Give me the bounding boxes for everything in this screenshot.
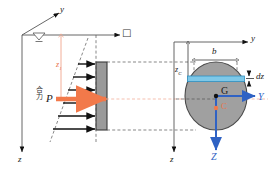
right-z-axis-label: z xyxy=(170,155,174,164)
pressure-distribution-arrows xyxy=(53,64,95,129)
right-y-axis-label: y xyxy=(251,34,255,43)
depth-label-zc-sub: C xyxy=(178,71,181,76)
submerged-plate xyxy=(96,62,107,130)
local-Z-axis-label: Z xyxy=(211,152,217,162)
figure-canvas: y z □ z1 合力 P y z zC b dz G C Y Z xyxy=(0,0,275,175)
water-surface-symbol xyxy=(33,33,45,42)
depth-label-z1: z1 xyxy=(56,61,62,72)
left-y-axis-label: y xyxy=(60,5,64,14)
local-Y-axis-label: Y xyxy=(258,92,264,102)
left-z-axis-label: z xyxy=(18,155,22,164)
dz-dimension-marks xyxy=(246,71,254,86)
pressure-center-point-C xyxy=(214,106,218,110)
resultant-force-label-P: P xyxy=(46,93,53,104)
depth-label-zc: zC xyxy=(175,66,181,77)
left-y-axis xyxy=(22,13,59,35)
depth-label-z1-sub: 1 xyxy=(59,66,61,71)
resultant-force-cjk-label: 合力 xyxy=(35,86,42,100)
pressure-center-label-C: C xyxy=(221,102,227,111)
centroid-point-G xyxy=(214,94,218,98)
element-strip-dz xyxy=(188,76,245,82)
plate-projection-lines xyxy=(107,62,196,130)
left-x-axis-label: □ xyxy=(122,28,131,38)
centroid-label-G: G xyxy=(221,86,228,96)
width-label-b: b xyxy=(212,47,217,56)
strip-label-dz: dz xyxy=(256,72,264,81)
